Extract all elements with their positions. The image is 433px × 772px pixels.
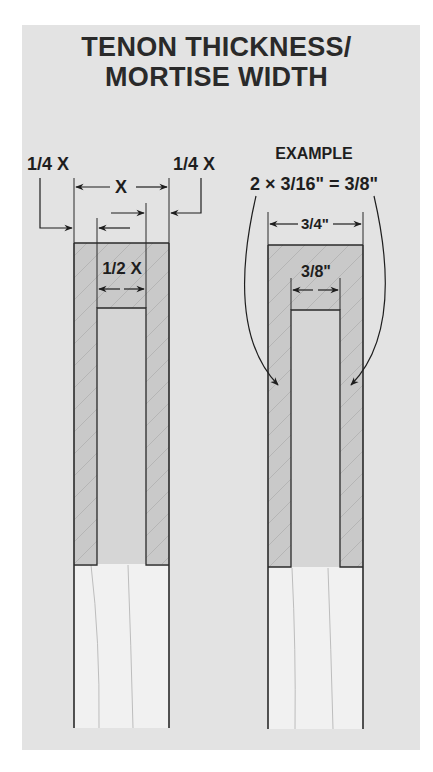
joinery-diagram: 1/4 X 1/4 X X 1/2 X EXAMPLE 2 × 3/16" = … <box>0 0 433 772</box>
left-mortise-opening <box>97 308 146 564</box>
right-mortise-opening <box>291 310 340 567</box>
example-heading: EXAMPLE <box>275 145 353 162</box>
label-three-eighth: 3/8" <box>301 263 331 280</box>
label-half-x: 1/2 X <box>102 259 142 278</box>
left-tenon-diagram: 1/4 X 1/4 X X 1/2 X <box>27 154 215 728</box>
label-left-quarter: 1/4 X <box>27 154 69 174</box>
right-example-diagram: EXAMPLE 2 × 3/16" = 3/8" 3/4" 3/8" <box>245 145 386 729</box>
example-equation: 2 × 3/16" = 3/8" <box>250 174 378 194</box>
label-three-quarter: 3/4" <box>301 215 329 232</box>
label-total-x: X <box>115 177 127 197</box>
right-wood-piece <box>268 567 363 729</box>
label-right-quarter: 1/4 X <box>173 154 215 174</box>
left-wood-piece <box>74 564 169 728</box>
